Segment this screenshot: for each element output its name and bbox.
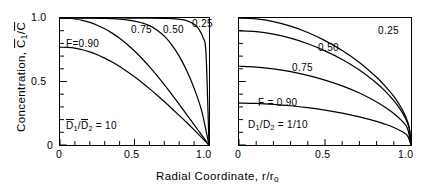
left-ratio-value: = 10 [93,120,117,131]
figure-root: Concentration, C1/C Radial Coordinate, r… [0,0,435,193]
left-x-tick-label-0: 0 [56,148,62,160]
left-ratio-d1: D [66,120,74,131]
right-curve-label-0.75: 0.75 [292,62,313,73]
y-axis-label-prefix: Concentration, [15,48,27,132]
y-tick-label-0: 0 [47,139,53,151]
y-axis-label: Concentration, C1/C [15,2,29,152]
x-axis-label-sub: o [274,175,279,184]
left-diffusivity-ratio-annotation: D1/D2 = 10 [66,120,117,133]
y-tick-label-1.0: 1.0 [31,11,47,23]
right-curve-label-0.50: 0.50 [318,42,339,53]
left-x-tick-label-0.5: 0.5 [124,148,140,160]
right-x-tick-label-1.0: 1.0 [398,148,414,160]
y-tick-label-0.5: 0.5 [31,75,47,87]
x-axis-label: Radial Coordinate, r/ro [0,170,435,184]
y-axis-label-c2: C [15,22,27,31]
left-curve-label-0.25: 0.25 [192,18,213,29]
right-curve-label-F: F = 0.90 [258,97,297,108]
right-x-tick-label-0.5: 0.5 [315,148,331,160]
right-x-tick-label-0: 0 [235,148,241,160]
right-ratio-d1: D [248,119,256,130]
y-axis-label-c1: C [15,39,27,48]
right-ratio-value: = 1/10 [275,119,308,130]
left-curve-label-0.50: 0.50 [163,24,184,35]
right-diffusivity-ratio-annotation: D1/D2 = 1/10 [248,119,308,132]
left-curve-label-0.75: 0.75 [131,24,152,35]
x-axis-label-prefix: Radial Coordinate, r/r [156,170,274,182]
left-ratio-d2: D [81,120,89,131]
left-curve-label-F: F=0.90 [66,38,99,49]
y-axis-label-slash: / [15,31,27,35]
right-curve-label-0.25: 0.25 [378,25,399,36]
left-x-tick-label-1.0: 1.0 [196,148,212,160]
